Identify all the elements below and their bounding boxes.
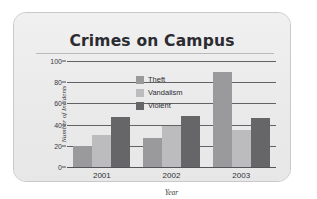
x-tick-label: 2002	[137, 167, 207, 180]
bar-theft-2001	[73, 146, 92, 167]
y-tick-mark	[62, 103, 66, 104]
y-tick-label: 60	[54, 100, 62, 107]
y-tick-mark	[62, 82, 66, 83]
legend-item-theft: Theft	[136, 74, 182, 85]
bar-violent-2002	[181, 116, 200, 167]
bar-group: 2003	[206, 61, 276, 167]
legend-label: Violent	[148, 101, 171, 110]
y-tick-mark	[62, 61, 66, 62]
bar-violent-2003	[251, 118, 270, 167]
title-divider	[36, 53, 274, 54]
legend-label: Theft	[148, 75, 165, 84]
x-tick-label: 2001	[67, 167, 137, 180]
chart-card: Crimes on Campus Number of Incidents 020…	[13, 12, 291, 182]
bar-vandalism-2003	[232, 130, 251, 167]
legend-swatch-icon	[136, 102, 144, 110]
chart-legend: Theft Vandalism Violent	[136, 74, 182, 111]
legend-label: Vandalism	[148, 88, 182, 97]
y-tick-label: 20	[54, 142, 62, 149]
legend-swatch-icon	[136, 76, 144, 84]
legend-swatch-icon	[136, 89, 144, 97]
y-tick-mark	[62, 124, 66, 125]
bar-theft-2003	[213, 72, 232, 167]
y-tick-label: 40	[54, 121, 62, 128]
legend-item-violent: Violent	[136, 100, 182, 111]
y-tick-label: 100	[50, 58, 62, 65]
x-axis-label: Year	[67, 188, 276, 197]
x-tick-label: 2003	[206, 167, 276, 180]
y-tick-mark	[62, 145, 66, 146]
y-tick-label: 80	[54, 79, 62, 86]
y-tick-mark	[62, 167, 66, 168]
chart-title: Crimes on Campus	[14, 32, 290, 50]
bar-group: 2001	[67, 61, 137, 167]
bar-vandalism-2001	[92, 135, 111, 167]
bar-vandalism-2002	[162, 126, 181, 167]
bar-theft-2002	[143, 138, 162, 167]
screenshot-root: Crimes on Campus Number of Incidents 020…	[0, 0, 317, 199]
bar-violent-2001	[111, 117, 130, 167]
y-tick-label: 0	[58, 164, 62, 171]
legend-item-vandalism: Vandalism	[136, 87, 182, 98]
